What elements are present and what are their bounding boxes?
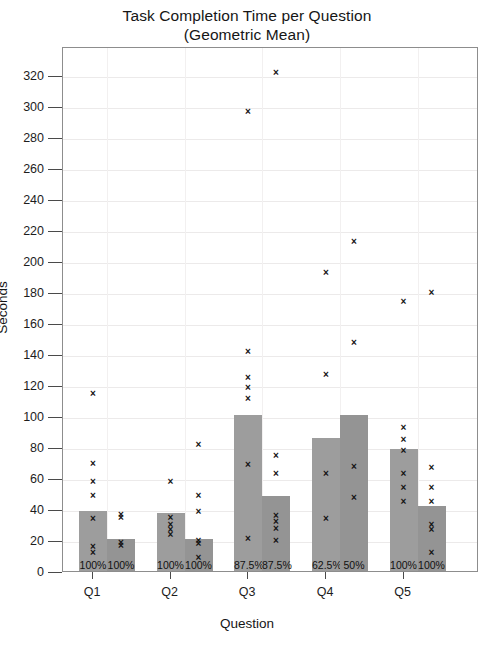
data-point-marker [89,477,98,486]
chart-title-line2: (Geometric Mean) [0,25,494,44]
x-axis-tick [170,572,171,579]
grid-line [63,418,477,419]
y-axis-tick [48,262,62,263]
y-axis-tick-label: 280 [4,132,44,144]
plot-inner: 100%100%87.5%62.5%100%100%100%87.5%50%10… [63,48,477,571]
data-point-marker [117,513,126,522]
y-axis-tick-label: 80 [4,442,44,454]
data-point-marker [322,370,331,379]
chart-title: Task Completion Time per Question (Geome… [0,6,494,44]
data-point-marker [244,373,253,382]
plot-area: 100%100%87.5%62.5%100%100%100%87.5%50%10… [62,47,478,572]
grid-line [63,325,477,326]
grid-line [63,263,477,264]
x-axis-tick-label: Q5 [378,585,428,599]
y-axis-tick-label: 320 [4,70,44,82]
grid-line [63,232,477,233]
bar-completion-label: 87.5% [234,560,262,571]
grid-line [63,108,477,109]
data-point-marker [272,469,281,478]
data-point-marker [272,68,281,77]
y-axis-tick [48,479,62,480]
chart-container: Task Completion Time per Question (Geome… [0,0,494,653]
grid-line [63,77,477,78]
y-axis-tick [48,76,62,77]
bar[interactable] [234,415,262,571]
grid-line [63,139,477,140]
x-axis-tick-label: Q2 [145,585,195,599]
data-point-marker [399,423,408,432]
grid-line [63,170,477,171]
y-axis-tick [48,107,62,108]
bar-completion-label: 100% [79,560,107,571]
bar-completion-label: 50% [340,560,368,571]
y-axis-tick-label: 240 [4,194,44,206]
bar-completion-label: 62.5% [312,560,340,571]
grid-line [63,387,477,388]
data-point-marker [89,459,98,468]
bar-completion-label: 87.5% [262,560,290,571]
grid-line-vertical [107,48,108,571]
grid-line-vertical [418,48,419,571]
y-axis-tick-label: 140 [4,349,44,361]
data-point-marker [322,268,331,277]
chart-title-line1: Task Completion Time per Question [123,7,372,24]
x-axis-tick-label: Q3 [222,585,272,599]
y-axis-tick-label: 40 [4,504,44,516]
x-axis-tick-label: Q4 [300,585,350,599]
bar[interactable] [340,415,368,571]
y-axis-tick [48,541,62,542]
x-axis-title: Question [0,616,494,631]
data-point-marker [272,451,281,460]
y-axis-tick [48,138,62,139]
y-axis-tick [48,572,62,573]
grid-line-vertical [262,48,263,571]
y-axis-tick-label: 60 [4,473,44,485]
data-point-marker [399,297,408,306]
bar[interactable] [312,438,340,571]
data-point-marker [89,491,98,500]
data-point-marker [194,491,203,500]
data-point-marker [427,497,436,506]
data-point-marker [350,237,359,246]
y-axis-tick-label: 300 [4,101,44,113]
y-axis-tick-label: 220 [4,225,44,237]
y-axis-tick-label: 160 [4,318,44,330]
y-axis-tick [48,417,62,418]
x-axis-tick [92,572,93,579]
y-axis-tick-label: 180 [4,287,44,299]
y-axis-tick-label: 20 [4,535,44,547]
data-point-marker [427,288,436,297]
y-axis-tick [48,324,62,325]
data-point-marker [244,394,253,403]
bar-completion-label: 100% [185,560,213,571]
y-axis-tick [48,293,62,294]
data-point-marker [427,463,436,472]
x-axis-tick [247,572,248,579]
y-axis-tick [48,169,62,170]
grid-line-vertical [185,48,186,571]
bar-completion-label: 100% [390,560,418,571]
y-axis-tick [48,200,62,201]
y-axis-tick-label: 120 [4,380,44,392]
data-point-marker [350,338,359,347]
data-point-marker [89,389,98,398]
bar-completion-label: 100% [107,560,135,571]
data-point-marker [399,435,408,444]
bar-completion-label: 100% [418,560,446,571]
data-point-marker [194,440,203,449]
x-axis-tick-label: Q1 [67,585,117,599]
y-axis-tick-label: 260 [4,163,44,175]
grid-line [63,356,477,357]
x-axis-tick [403,572,404,579]
y-axis-tick-label: 100 [4,411,44,423]
bar-completion-label: 100% [157,560,185,571]
y-axis-tick [48,355,62,356]
y-axis-tick [48,231,62,232]
data-point-marker [244,347,253,356]
y-axis-tick [48,386,62,387]
y-axis-tick [48,510,62,511]
grid-line [63,294,477,295]
bar[interactable] [390,449,418,571]
data-point-marker [166,477,175,486]
